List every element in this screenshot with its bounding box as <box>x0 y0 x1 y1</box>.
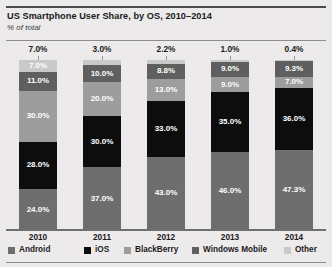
bar-segment[interactable]: 13.0% <box>147 79 185 101</box>
bar-segment-label: 9.3% <box>285 65 303 73</box>
bar-segment-label: 10.0% <box>91 70 114 78</box>
legend-swatch-icon <box>192 247 199 254</box>
bar-segment-label: 11.0% <box>27 77 49 85</box>
header-rule-top <box>6 6 326 8</box>
x-axis-labels: 20102011201220132014 <box>6 232 326 244</box>
bar-segment[interactable]: 30.0% <box>19 91 57 142</box>
bar-segment-label: 8.8% <box>157 67 175 75</box>
chart-title: US Smartphone User Share, by OS, 2010–20… <box>7 11 212 21</box>
bar-segment-label: 9.0% <box>221 65 239 73</box>
legend-label: Android <box>19 246 50 254</box>
bar-segment[interactable]: 24.0% <box>19 189 57 230</box>
bar-segment-label: 9.0% <box>221 81 239 89</box>
stacked-bar[interactable]: 1.0%9.0%9.0%35.0%46.0% <box>211 60 249 230</box>
legend-swatch-icon <box>124 247 131 254</box>
bar-segment[interactable]: 30.0% <box>83 116 121 167</box>
bar-segment[interactable]: 35.0% <box>211 92 249 152</box>
other-callout-label: 7.0% <box>6 44 70 54</box>
bar-segment-label: 37.0% <box>91 195 114 203</box>
legend-label: iOS <box>95 246 109 254</box>
x-axis-line <box>6 229 326 231</box>
bar-column: 3.0%3.0%10.0%20.0%30.0%37.0% <box>70 44 134 230</box>
stacked-bar[interactable]: 3.0%10.0%20.0%30.0%37.0% <box>83 60 121 230</box>
bar-segment-label: 30.0% <box>91 138 114 146</box>
bar-segment[interactable]: 9.0% <box>211 62 249 77</box>
bar-segment[interactable]: 43.0% <box>147 157 185 230</box>
bar-segment[interactable]: 9.0% <box>211 77 249 92</box>
bar-segment-label: 46.0% <box>219 187 242 195</box>
bar-segment-label: 7.0% <box>285 78 303 86</box>
legend-swatch-icon <box>84 247 91 254</box>
x-axis-tick-label: 2012 <box>134 232 198 242</box>
legend-swatch-icon <box>284 247 291 254</box>
bar-segment-label: 28.0% <box>27 161 50 169</box>
x-axis-tick-label: 2014 <box>262 232 326 242</box>
chart-legend: AndroidiOSBlackBerryWindows MobileOther <box>6 246 326 258</box>
bar-segment-label: 33.0% <box>155 125 178 133</box>
bar-segment-label: 30.0% <box>27 112 50 120</box>
legend-swatch-icon <box>8 247 15 254</box>
bar-segment[interactable]: 10.0% <box>83 65 121 82</box>
footer-rule <box>6 262 326 263</box>
x-axis-tick-label: 2013 <box>198 232 262 242</box>
bar-column: 0.4%0.4%9.3%7.0%36.0%47.3% <box>262 44 326 230</box>
chart-subtitle: % of total <box>7 23 40 32</box>
legend-item[interactable]: BlackBerry <box>124 246 178 254</box>
bar-column: 2.2%2.2%8.8%13.0%33.0%43.0% <box>134 44 198 230</box>
legend-item[interactable]: Android <box>8 246 50 254</box>
other-callout-label: 1.0% <box>198 44 262 54</box>
stacked-bar[interactable]: 0.4%9.3%7.0%36.0%47.3% <box>275 60 313 230</box>
bar-segment[interactable]: 36.0% <box>275 88 313 149</box>
legend-item[interactable]: iOS <box>84 246 109 254</box>
legend-item[interactable]: Windows Mobile <box>192 246 267 254</box>
bar-segment-label: 35.0% <box>219 118 242 126</box>
bar-segment[interactable]: 28.0% <box>19 142 57 190</box>
bar-segment-label: 24.0% <box>27 206 50 214</box>
legend-label: BlackBerry <box>135 246 178 254</box>
other-callout-label: 3.0% <box>70 44 134 54</box>
bar-segment[interactable]: 7.0% <box>19 60 57 72</box>
bar-segment-label: 47.3% <box>283 186 306 194</box>
stacked-bar[interactable]: 2.2%8.8%13.0%33.0%43.0% <box>147 60 185 230</box>
bar-column: 1.0%1.0%9.0%9.0%35.0%46.0% <box>198 44 262 230</box>
bar-segment[interactable]: 9.3% <box>275 61 313 77</box>
bar-segment[interactable]: 46.0% <box>211 152 249 230</box>
legend-item[interactable]: Other <box>284 246 317 254</box>
legend-label: Other <box>295 246 317 254</box>
bar-segment[interactable]: 20.0% <box>83 82 121 116</box>
bar-segment-label: 20.0% <box>91 95 114 103</box>
header-rule-bottom <box>6 40 326 41</box>
bar-segment-label: 36.0% <box>283 115 306 123</box>
x-axis-tick-label: 2011 <box>70 232 134 242</box>
bar-segment[interactable]: 33.0% <box>147 101 185 157</box>
bar-segment-label: 43.0% <box>155 189 178 197</box>
plot-area: 7.0%7.0%11.0%30.0%28.0%24.0%3.0%3.0%10.0… <box>6 44 326 230</box>
bar-segment-label: 13.0% <box>155 86 178 94</box>
bar-segment-label: 7.0% <box>29 62 47 70</box>
chart-figure: US Smartphone User Share, by OS, 2010–20… <box>0 0 332 267</box>
other-callout-label: 2.2% <box>134 44 198 54</box>
stacked-bar[interactable]: 7.0%11.0%30.0%28.0%24.0% <box>19 60 57 230</box>
bar-segment[interactable]: 47.3% <box>275 150 313 230</box>
bar-segment[interactable]: 37.0% <box>83 167 121 230</box>
bar-column: 7.0%7.0%11.0%30.0%28.0%24.0% <box>6 44 70 230</box>
bar-segment[interactable]: 11.0% <box>19 72 57 91</box>
other-callout-label: 0.4% <box>262 44 326 54</box>
bar-segment[interactable]: 8.8% <box>147 64 185 79</box>
bar-segment[interactable]: 7.0% <box>275 77 313 89</box>
x-axis-tick-label: 2010 <box>6 232 70 242</box>
legend-label: Windows Mobile <box>203 246 267 254</box>
